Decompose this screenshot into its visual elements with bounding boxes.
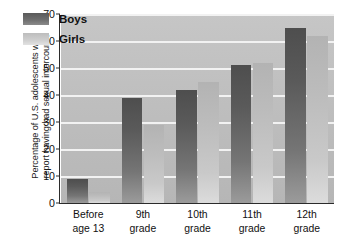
bar-girls xyxy=(89,192,110,203)
x-axis-tick-label: Beforeage 13 xyxy=(61,208,116,235)
y-axis-tick-label: 0 xyxy=(35,197,55,209)
x-axis-tick-label-line-2: grade xyxy=(116,222,171,236)
bar-group xyxy=(170,14,225,203)
bar-girls xyxy=(253,63,274,203)
x-axis-tick-label-line-2: grade xyxy=(170,222,225,236)
x-axis-tick-label: 11thgrade xyxy=(225,208,280,235)
legend-item-boys: Boys xyxy=(23,9,87,29)
bar-group xyxy=(279,14,334,203)
y-axis-tick-label: 20 xyxy=(35,143,55,155)
legend-label-girls: Girls xyxy=(59,33,85,45)
x-axis-line xyxy=(59,203,334,204)
bar-group xyxy=(225,14,280,203)
x-axis-tick-label-line-1: 11th xyxy=(225,208,280,222)
bar-boys xyxy=(67,179,88,203)
legend: Boys Girls xyxy=(23,9,87,49)
bar-chart-figure: Percentage of U.S. adolescents who repor… xyxy=(0,0,344,248)
legend-swatch-boys-icon xyxy=(23,13,49,25)
x-axis-tick-label: 10thgrade xyxy=(170,208,225,235)
x-axis-tick-label-line-2: grade xyxy=(279,222,334,236)
bar-girls xyxy=(144,125,165,203)
bar-group xyxy=(116,14,171,203)
bar-boys xyxy=(122,98,143,203)
bar-boys xyxy=(176,90,197,203)
x-axis-tick-label-line-1: 12th xyxy=(279,208,334,222)
x-axis-tick-label-line-1: 10th xyxy=(170,208,225,222)
bar-girls xyxy=(198,82,219,204)
legend-item-girls: Girls xyxy=(23,29,87,49)
plot-area xyxy=(61,14,334,203)
bar-boys xyxy=(285,28,306,204)
legend-swatch-girls-icon xyxy=(23,33,49,45)
x-axis-tick-labels: Beforeage 139thgrade10thgrade11thgrade12… xyxy=(61,208,334,246)
x-axis-tick-label-line-1: 9th xyxy=(116,208,171,222)
y-axis-tick-label: 50 xyxy=(35,62,55,74)
bar-girls xyxy=(307,36,328,203)
x-axis-tick-label-line-1: Before xyxy=(61,208,116,222)
x-axis-tick-label-line-2: age 13 xyxy=(61,222,116,236)
x-axis-tick-label-line-2: grade xyxy=(225,222,280,236)
legend-label-boys: Boys xyxy=(59,13,87,25)
y-axis-tick-label: 30 xyxy=(35,116,55,128)
x-axis-tick-label: 9thgrade xyxy=(116,208,171,235)
y-axis-tick-label: 10 xyxy=(35,170,55,182)
x-axis-tick-label: 12thgrade xyxy=(279,208,334,235)
y-axis-tick-label: 40 xyxy=(35,89,55,101)
bar-boys xyxy=(231,65,252,203)
